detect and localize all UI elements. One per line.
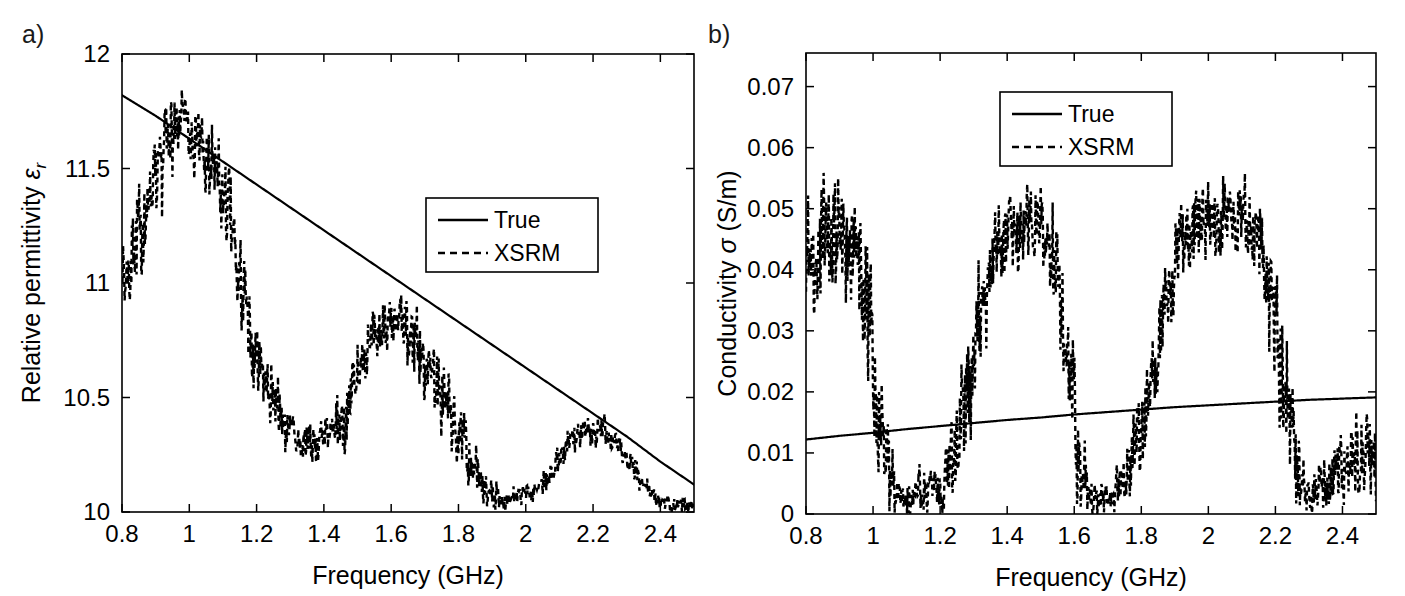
panel-a-label: a) bbox=[22, 22, 44, 47]
legend-label-xsrm: XSRM bbox=[1068, 134, 1134, 160]
x-tick-label: 1 bbox=[866, 522, 879, 549]
panel-a-chart: 0.811.21.41.61.822.22.41010.51111.512Fre… bbox=[0, 0, 700, 596]
x-tick-label: 2.4 bbox=[1326, 522, 1359, 549]
panel-b-chart: 0.811.21.41.61.822.22.400.010.020.030.04… bbox=[700, 0, 1405, 596]
y-tick-label: 10 bbox=[83, 498, 110, 525]
x-tick-label: 2.2 bbox=[576, 520, 609, 547]
x-tick-label: 1.8 bbox=[1125, 522, 1158, 549]
x-tick-label: 1.2 bbox=[923, 522, 956, 549]
y-tick-label: 10.5 bbox=[63, 384, 110, 411]
x-tick-label: 2 bbox=[1202, 522, 1215, 549]
x-tick-label: 1.8 bbox=[442, 520, 475, 547]
x-tick-label: 1.4 bbox=[307, 520, 340, 547]
x-tick-label: 1.6 bbox=[1058, 522, 1091, 549]
x-tick-label: 1.2 bbox=[240, 520, 273, 547]
panel-a: a) 0.811.21.41.61.822.22.41010.51111.512… bbox=[0, 0, 700, 596]
y-axis-title: Relative permittivity εr bbox=[17, 162, 50, 404]
legend: TrueXSRM bbox=[426, 198, 598, 272]
y-tick-label: 11 bbox=[85, 269, 110, 296]
legend: TrueXSRM bbox=[1000, 92, 1172, 166]
x-tick-label: 1 bbox=[183, 520, 196, 547]
x-tick-label: 2.4 bbox=[644, 520, 677, 547]
y-tick-label: 0.07 bbox=[747, 73, 794, 100]
y-tick-label: 0 bbox=[781, 500, 794, 527]
legend-label-true: True bbox=[1068, 101, 1114, 127]
svg-text:Relative permittivity εr: Relative permittivity εr bbox=[17, 162, 50, 404]
y-tick-label: 0.04 bbox=[747, 256, 794, 283]
y-tick-label: 0.05 bbox=[747, 195, 794, 222]
y-tick-label: 0.02 bbox=[747, 378, 794, 405]
x-tick-label: 0.8 bbox=[789, 522, 822, 549]
y-axis-title: Conductivity σ (S/m) bbox=[713, 170, 741, 396]
x-tick-label: 1.4 bbox=[990, 522, 1023, 549]
y-tick-label: 11.5 bbox=[65, 155, 110, 182]
x-axis-title: Frequency (GHz) bbox=[312, 561, 504, 589]
panel-b-label: b) bbox=[708, 22, 730, 47]
x-tick-label: 0.8 bbox=[105, 520, 138, 547]
x-axis-title: Frequency (GHz) bbox=[995, 563, 1187, 591]
y-tick-label: 0.01 bbox=[747, 439, 794, 466]
x-tick-label: 2 bbox=[519, 520, 532, 547]
figure-root: a) 0.811.21.41.61.822.22.41010.51111.512… bbox=[0, 0, 1405, 596]
legend-label-xsrm: XSRM bbox=[494, 240, 560, 266]
panel-b: b) 0.811.21.41.61.822.22.400.010.020.030… bbox=[700, 0, 1405, 596]
legend-label-true: True bbox=[494, 207, 540, 233]
y-tick-label: 12 bbox=[83, 40, 110, 67]
y-tick-label: 0.03 bbox=[747, 317, 794, 344]
x-tick-label: 1.6 bbox=[374, 520, 407, 547]
svg-text:Conductivity σ (S/m): Conductivity σ (S/m) bbox=[713, 170, 741, 396]
x-tick-label: 2.2 bbox=[1259, 522, 1292, 549]
y-tick-label: 0.06 bbox=[747, 134, 794, 161]
